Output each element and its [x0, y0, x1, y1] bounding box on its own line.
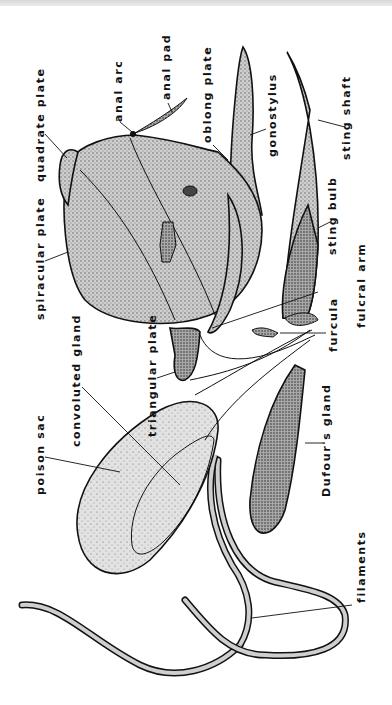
label-poison-sac: poison sac [34, 414, 47, 495]
label-quadrate-plate: quadrate plate [34, 67, 47, 182]
leader-filaments [252, 605, 352, 618]
sting-bulb-shape [282, 205, 318, 320]
anal-arc-point [130, 131, 136, 137]
sting-apparatus-diagram: quadrate plate anal arc anal pad oblong … [0, 0, 392, 705]
label-furcula: furcula [327, 297, 340, 352]
dufours-gland-shape [250, 365, 305, 533]
anal-pad-shape [135, 98, 187, 133]
label-sting-shaft: sting shaft [340, 75, 353, 160]
label-convoluted-gland: convoluted gland [70, 314, 83, 447]
furcula-shape [252, 328, 278, 337]
label-triangular-plate: triangular plate [146, 314, 159, 437]
label-sting-bulb: sting bulb [326, 177, 339, 255]
label-oblong-plate: oblong plate [201, 46, 214, 143]
label-dufours-gland: Dufour's gland [320, 384, 333, 497]
label-gonostylus: gonostylus [266, 73, 279, 157]
leader-spiracular-plate [45, 252, 68, 261]
leader-quadrate-plate [45, 134, 67, 158]
leader-triangular-plate [157, 372, 175, 378]
label-fulcral-arm: fulcral arm [355, 243, 368, 328]
label-spiracular-plate: spiracular plate [34, 197, 47, 320]
label-anal-pad: anal pad [160, 34, 173, 100]
leader-anal-arc [120, 122, 132, 132]
label-filaments: filaments [355, 530, 368, 603]
label-anal-arc: anal arc [112, 60, 125, 122]
